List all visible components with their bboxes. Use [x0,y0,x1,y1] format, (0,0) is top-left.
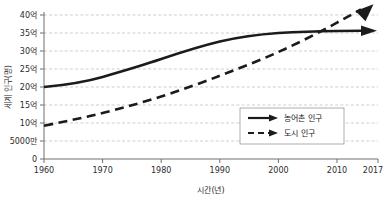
line-chart: 40억 35억 30억 25억 20억 15억 10억 5000만 0 1960… [0,0,385,206]
urban-population-arrowhead [356,4,374,21]
y-tick-label-40eok: 40억 [20,10,37,20]
rural-population-line [44,31,362,87]
y-tick-label-25eok: 25억 [20,64,37,74]
y-tick-label-30eok: 30억 [20,46,37,56]
y-tick-label-35eok: 35억 [20,28,37,38]
y-axis-tick-labels: 40억 35억 30억 25억 20억 15억 10억 5000만 0 [10,10,38,164]
y-tick-label-zero: 0 [32,155,37,164]
y-tick-label-10eok: 10억 [20,118,37,128]
x-tick-label-1960: 1960 [34,166,54,175]
x-tick-label-1980: 1980 [151,166,171,175]
x-axis-ticks [44,159,378,163]
x-tick-label-2000: 2000 [268,166,288,175]
series-rural-population [44,26,377,87]
y-tick-label-20eok: 20억 [20,82,37,92]
x-tick-label-1990: 1990 [210,166,230,175]
x-tick-label-2017: 2017 [363,166,383,175]
legend-label-rural-population: 농어촌 인구 [284,113,322,123]
x-tick-label-1970: 1970 [92,166,112,175]
x-tick-label-2010: 2010 [327,166,347,175]
chart-container: 40억 35억 30억 25억 20억 15억 10억 5000만 0 1960… [0,0,385,206]
legend-label-urban-population: 도시 인구 [284,128,315,138]
y-axis-title: 세계 인구(명) [3,65,13,109]
rural-population-arrowhead [361,26,377,36]
chart-legend[interactable]: 농어촌 인구 도시 인구 [240,108,344,144]
series-urban-population [44,4,374,126]
x-axis-tick-labels: 1960 1970 1980 1990 2000 2010 2017 [34,166,383,175]
y-axis-ticks [40,15,44,159]
y-tick-label-15eok: 15억 [20,100,37,110]
y-tick-label-5000man: 5000만 [10,137,38,146]
x-axis-title: 시간(년) [197,185,224,195]
